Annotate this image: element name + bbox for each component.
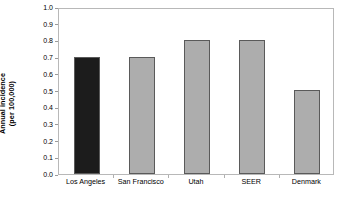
- y-axis-title-line-2: (per 100,000): [7, 73, 17, 134]
- x-axis-tick-labels: Los AngelesSan FranciscoUtahSEERDenmark: [58, 177, 334, 193]
- y-axis-tick-label: 0.7: [33, 54, 53, 61]
- y-axis-tick-label: 0.6: [33, 71, 53, 78]
- y-axis-tick-label: 0.9: [33, 21, 53, 28]
- y-axis-tick-label: 0.2: [33, 138, 53, 145]
- bar: [74, 57, 100, 174]
- plot-area: [58, 8, 334, 175]
- bar-chart: Annual incidence (per 100,000) 1.00.90.8…: [0, 0, 341, 207]
- y-axis-tick-label: 0.1: [33, 154, 53, 161]
- bar: [294, 90, 320, 174]
- y-axis-tick-label: 0.5: [33, 88, 53, 95]
- y-axis-title: Annual incidence (per 100,000): [0, 0, 36, 207]
- y-axis-tick-label: 0.4: [33, 104, 53, 111]
- y-axis-tick-mark: [55, 175, 58, 176]
- y-axis-tick-labels: 1.00.90.80.70.60.50.40.30.20.10.0: [33, 8, 53, 175]
- bar: [239, 40, 265, 174]
- y-axis-tick-label: 1.0: [33, 4, 53, 11]
- bar: [129, 57, 155, 174]
- y-axis-tick-label: 0.8: [33, 37, 53, 44]
- x-axis-tick-label: Denmark: [256, 177, 341, 186]
- y-axis-tick-label: 0.3: [33, 121, 53, 128]
- bar: [184, 40, 210, 174]
- bars-container: [59, 9, 333, 174]
- y-axis-title-line-1: Annual incidence: [0, 73, 7, 134]
